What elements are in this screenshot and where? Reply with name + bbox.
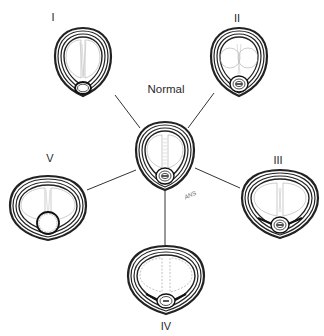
cross-section-IV — [128, 246, 204, 314]
cross-section-normal — [136, 122, 194, 190]
label-IV: IV — [161, 321, 171, 332]
connector-line-I — [115, 95, 140, 128]
cross-section-III — [242, 170, 318, 238]
cross-section-II — [211, 28, 267, 96]
diagram-svg — [0, 0, 324, 336]
label-III: III — [273, 155, 282, 166]
label-normal: Normal — [147, 84, 184, 96]
label-V: V — [46, 153, 53, 164]
connector-line-III — [195, 168, 240, 188]
label-II: II — [234, 13, 240, 24]
connector-line-II — [188, 93, 214, 128]
connector-line-V — [87, 170, 136, 190]
label-I: I — [51, 12, 54, 23]
cross-section-V — [10, 176, 86, 240]
cross-section-I — [55, 28, 111, 96]
diagram-canvas: I II Normal V III IV ANS — [0, 0, 324, 336]
